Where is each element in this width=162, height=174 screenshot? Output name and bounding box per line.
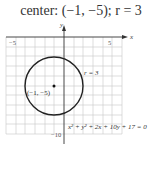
- equation-label: x² + y² + 2x + 10y + 17 = 0: [67, 123, 147, 131]
- center-label: (−1, −5): [27, 89, 51, 97]
- x-axis-arrow-icon: [122, 35, 128, 39]
- center-point: [53, 85, 56, 88]
- x-axis-label: x: [129, 33, 134, 41]
- radius-label: r = 3: [84, 69, 99, 77]
- circle-graph: x y −5 5 −10 r = 3 (−1, −5) x² + y² + 2x…: [0, 0, 162, 174]
- tick-label-5: 5: [108, 39, 111, 46]
- tick-label-neg5: −5: [9, 39, 16, 46]
- tick-label-neg10: −10: [51, 131, 61, 138]
